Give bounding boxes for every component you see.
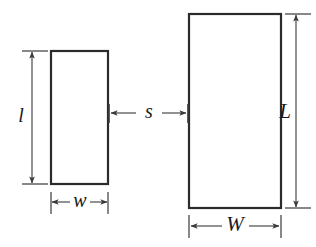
dimension-L-label: L (278, 99, 291, 123)
small-rectangle (51, 51, 108, 184)
dimension-s: s (109, 100, 188, 123)
dimension-L: L (278, 14, 311, 208)
dimension-l: l (18, 51, 48, 184)
diagram-canvas: l w s L (0, 0, 316, 247)
dimension-W-label: W (226, 212, 246, 236)
dimension-l-label: l (18, 104, 24, 126)
dimension-w-label: w (73, 189, 87, 211)
dimension-w: w (51, 189, 108, 214)
dimension-s-label: s (145, 100, 153, 122)
dimension-W: W (189, 212, 281, 238)
dimension-diagram: l w s L (0, 0, 316, 247)
large-rectangle (189, 14, 281, 208)
shapes-group (51, 14, 281, 208)
